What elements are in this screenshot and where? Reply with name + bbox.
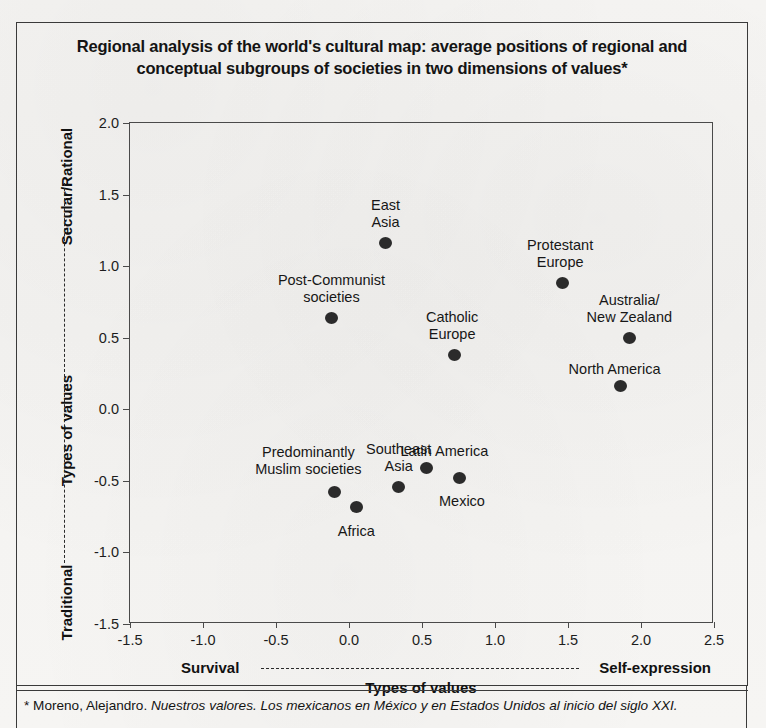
y-axis-dashed-divider: [64, 183, 65, 563]
x-tick-mark: [568, 622, 569, 628]
x-axis-label: Types of values: [129, 679, 713, 696]
x-tick-mark: [130, 622, 131, 628]
y-tick-mark: [123, 624, 130, 625]
footnote: * Moreno, Alejandro. Nuestros valores. L…: [24, 698, 754, 713]
x-tick-mark: [349, 622, 350, 628]
x-axis-dashed-divider: [261, 668, 579, 669]
x-tick-label: -0.5: [264, 632, 289, 648]
x-tick-mark: [276, 622, 277, 628]
footnote-divider: [16, 690, 748, 691]
x-tick-mark: [641, 622, 642, 628]
y-tick-label: -1.0: [94, 544, 119, 560]
x-tick-mark: [714, 622, 715, 628]
x-tick-label: 1.5: [558, 632, 578, 648]
y-tick-label: -0.5: [94, 473, 119, 489]
data-point-label: Australia/ New Zealand: [587, 292, 672, 326]
data-point[interactable]: [453, 472, 466, 484]
y-tick-label: 2.0: [99, 115, 119, 131]
data-point[interactable]: [379, 237, 392, 249]
y-axis-pole-traditional: Traditional: [58, 565, 75, 641]
y-tick-mark: [123, 409, 130, 410]
data-point-label: Predominantly Muslim societies: [255, 444, 361, 478]
data-point-label: North America: [569, 361, 661, 378]
x-tick-label: -1.0: [191, 632, 216, 648]
footnote-work: Nuestros valores. Los mexicanos en Méxic…: [151, 698, 678, 713]
y-tick-label: -1.5: [94, 616, 119, 632]
y-tick-mark: [123, 481, 130, 482]
y-tick-mark: [123, 266, 130, 267]
x-tick-label: -1.5: [118, 632, 143, 648]
plot-area: 2.01.51.00.50.0-0.5-1.0-1.5-1.5-1.0-0.50…: [129, 122, 713, 623]
footnote-author: Moreno, Alejandro.: [33, 698, 147, 713]
y-axis-pole-secular-rational: Secular/Rational: [58, 128, 75, 246]
data-point[interactable]: [325, 312, 338, 324]
data-point-label: Protestant Europe: [527, 237, 593, 271]
x-axis-pole-survival: Survival: [181, 659, 239, 676]
data-point-label: Latin America: [400, 443, 488, 460]
data-point[interactable]: [420, 462, 433, 474]
y-tick-label: 1.0: [99, 258, 119, 274]
data-point[interactable]: [614, 380, 627, 392]
y-tick-label: 0.0: [99, 401, 119, 417]
footnote-left-rule: [16, 686, 17, 728]
y-tick-mark: [123, 338, 130, 339]
x-tick-label: 2.5: [704, 632, 724, 648]
title-line-2: conceptual subgroups of societies in two…: [31, 57, 733, 79]
data-point[interactable]: [448, 349, 461, 361]
y-tick-mark: [123, 195, 130, 196]
data-point[interactable]: [623, 332, 636, 344]
data-point[interactable]: [328, 486, 341, 498]
data-point[interactable]: [556, 277, 569, 289]
page-background: Regional analysis of the world's cultura…: [0, 0, 766, 728]
y-tick-label: 1.5: [99, 187, 119, 203]
x-axis-pole-self-expression: Self-expression: [599, 659, 711, 676]
y-tick-mark: [123, 552, 130, 553]
x-tick-mark: [203, 622, 204, 628]
x-tick-mark: [495, 622, 496, 628]
data-point[interactable]: [392, 481, 405, 493]
x-tick-label: 2.0: [631, 632, 651, 648]
x-tick-label: 0.5: [412, 632, 432, 648]
x-tick-label: 1.0: [485, 632, 505, 648]
page-title: Regional analysis of the world's cultura…: [31, 35, 733, 80]
title-line-1: Regional analysis of the world's cultura…: [77, 37, 687, 55]
y-tick-label: 0.5: [99, 330, 119, 346]
data-point[interactable]: [350, 501, 363, 513]
data-point-label: Africa: [338, 523, 375, 540]
data-point-label: Mexico: [439, 493, 485, 510]
footnote-marker: *: [24, 698, 29, 713]
data-point-label: Post-Communist societies: [278, 272, 385, 306]
x-tick-label: 0.0: [339, 632, 359, 648]
x-tick-mark: [422, 622, 423, 628]
data-point-label: Catholic Europe: [426, 309, 478, 343]
data-point-label: East Asia: [371, 197, 400, 231]
y-tick-mark: [123, 123, 130, 124]
y-axis-label: Types of values: [58, 375, 75, 486]
figure-box: Regional analysis of the world's cultura…: [16, 22, 748, 686]
y-axis-title-group: Secular/Rational Types of values Traditi…: [53, 122, 79, 623]
